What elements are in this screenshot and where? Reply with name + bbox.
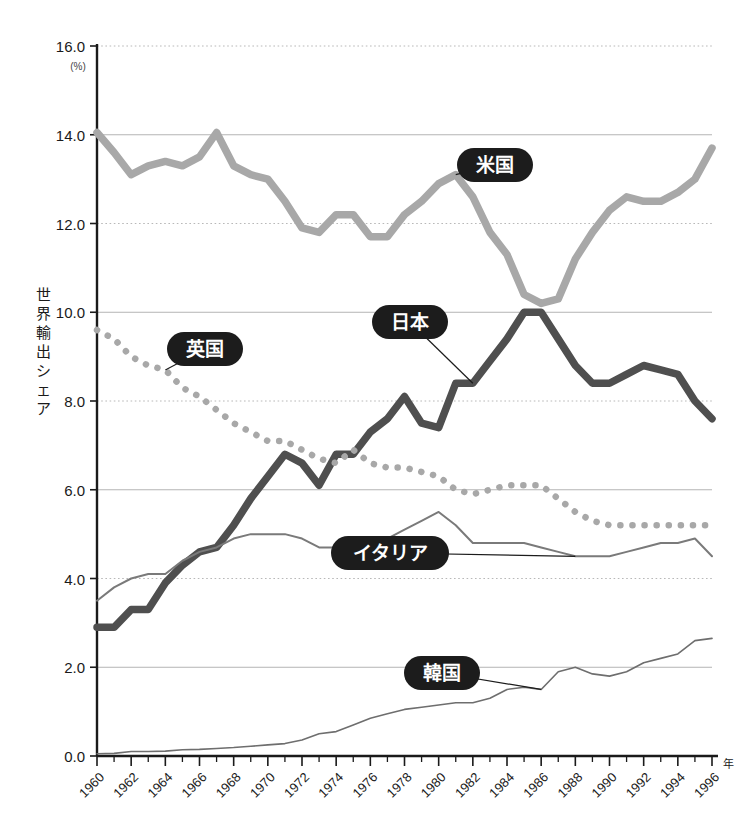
y-axis-tick-labels: 0.02.04.06.08.010.012.014.016.0	[56, 38, 97, 765]
series-lines	[97, 133, 712, 754]
y-tick-label: 4.0	[64, 571, 85, 588]
x-tick-label: 1976	[349, 770, 380, 801]
x-tick-label: 1964	[144, 770, 175, 801]
series-label-text: 英国	[186, 338, 224, 360]
y-tick-label: 16.0	[56, 38, 85, 55]
x-tick-label: 1974	[315, 770, 346, 801]
y-tick-label: 12.0	[56, 216, 85, 233]
chart-container: 0.02.04.06.08.010.012.014.016.0 19601962…	[0, 0, 754, 839]
x-tick-label: 1980	[418, 770, 449, 801]
x-tick-label: 1986	[520, 770, 551, 801]
y-tick-label: 14.0	[56, 127, 85, 144]
x-tick-label: 1978	[384, 770, 415, 801]
y-tick-label: 2.0	[64, 659, 85, 676]
series-label-text: 米国	[476, 154, 514, 176]
y-tick-label: 8.0	[64, 393, 85, 410]
y-tick-label: 6.0	[64, 482, 85, 499]
x-axis-ticks	[97, 756, 712, 766]
x-tick-label: 1960	[76, 770, 107, 801]
x-tick-label: 1984	[486, 770, 517, 801]
series-line-united-states	[97, 133, 712, 304]
y-tick-label: 10.0	[56, 304, 85, 321]
x-tick-label: 1992	[623, 770, 654, 801]
x-tick-label: 1970	[247, 770, 278, 801]
series-label-text: イタリア	[353, 542, 428, 564]
y-tick-label: 0.0	[64, 748, 85, 765]
y-axis-title: 世界輸出シェア	[36, 286, 52, 418]
x-tick-label: 1962	[110, 770, 141, 801]
x-tick-label: 1988	[554, 770, 585, 801]
x-tick-label: 1996	[691, 770, 722, 801]
series-label-text: 日本	[391, 311, 429, 333]
x-tick-label: 1994	[657, 770, 688, 801]
x-tick-label: 1968	[213, 770, 244, 801]
x-axis-tick-labels: 1960196219641966196819701972197419761978…	[76, 770, 722, 801]
x-tick-label: 1972	[281, 770, 312, 801]
x-tick-label: 1990	[589, 770, 620, 801]
series-line-south-korea	[97, 638, 712, 753]
x-axis-unit-label: 年	[723, 757, 734, 770]
world-export-share-line-chart: 0.02.04.06.08.010.012.014.016.0 19601962…	[0, 0, 754, 839]
y-axis-unit-note: (%)	[70, 61, 86, 72]
x-tick-label: 1966	[179, 770, 210, 801]
series-label-text: 韓国	[423, 662, 461, 684]
x-tick-label: 1982	[452, 770, 483, 801]
